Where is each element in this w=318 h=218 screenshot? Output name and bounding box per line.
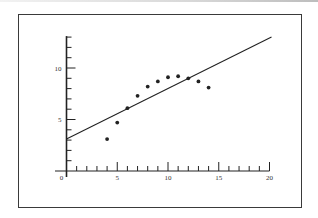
axis-ticks — [67, 37, 270, 171]
data-point — [146, 85, 150, 89]
data-point — [186, 76, 190, 80]
y-tick-label: 5 — [58, 116, 62, 124]
data-point — [156, 79, 160, 83]
fit-line — [67, 37, 272, 139]
scatter-chart: 05101520510 — [0, 0, 318, 218]
x-tick-label: 0 — [60, 174, 64, 182]
data-point — [105, 137, 109, 141]
x-tick-label: 20 — [266, 174, 274, 182]
data-points — [105, 74, 210, 141]
data-point — [115, 121, 119, 125]
x-tick-label: 15 — [215, 174, 223, 182]
axes — [55, 36, 270, 177]
data-point — [207, 86, 211, 90]
data-point — [126, 106, 130, 110]
y-tick-label: 10 — [55, 65, 63, 73]
data-point — [166, 75, 170, 79]
x-tick-label: 10 — [165, 174, 173, 182]
x-tick-label: 5 — [116, 174, 120, 182]
data-point — [197, 79, 201, 83]
data-point — [176, 74, 180, 78]
regression-line — [67, 37, 272, 139]
data-point — [136, 94, 140, 98]
tick-labels: 05101520510 — [55, 65, 274, 183]
